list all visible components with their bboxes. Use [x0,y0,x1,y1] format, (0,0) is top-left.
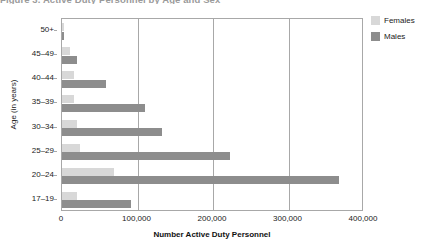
x-tick-label: 100,000 [102,214,172,223]
y-tick-label: 20–24 [0,170,54,179]
y-tick-mark [54,30,57,31]
bar-group [62,43,362,67]
bar-group [62,67,362,91]
bar-group [62,91,362,115]
bar-males [62,176,339,184]
x-tick-label: 400,000 [328,214,398,223]
bar-females [62,71,74,79]
y-tick-mark [54,199,57,200]
bar-males [62,200,131,208]
y-tick-mark [54,175,57,176]
y-tick-label: 45–49 [0,49,54,58]
y-tick-mark [54,102,57,103]
x-axis-title: Number Active Duty Personnel [61,230,363,239]
bar-group [62,164,362,188]
bar-females [62,120,77,128]
bar-group [62,116,362,140]
bar-males [62,104,145,112]
y-tick-label: 35–39 [0,97,54,106]
y-tick-mark [54,78,57,79]
chart-title: Figure 3. Active Duty Personnel by Age a… [0,0,432,4]
y-tick-label: 25–29 [0,146,54,155]
chart-legend: FemalesMales [371,14,431,46]
bar-males [62,80,106,88]
bar-males [62,32,64,40]
bar-females [62,168,114,176]
legend-swatch-icon [371,16,380,25]
bar-males [62,128,162,136]
y-tick-label: 50+ [0,25,54,34]
bar-group [62,188,362,212]
legend-label: Females [384,16,415,25]
x-tick-label: 300,000 [253,214,323,223]
bar-females [62,23,64,31]
y-tick-mark [54,151,57,152]
plot-area [61,18,363,211]
legend-swatch-icon [371,32,380,41]
legend-label: Males [384,32,405,41]
bar-group [62,19,362,43]
bar-females [62,47,70,55]
y-tick-label: 17–19 [0,194,54,203]
bar-males [62,152,230,160]
bar-group [62,140,362,164]
bar-chart: Figure 3. Active Duty Personnel by Age a… [0,0,432,251]
bar-females [62,144,80,152]
y-tick-mark [54,127,57,128]
bar-females [62,192,77,200]
y-tick-label: 40–44 [0,73,54,82]
x-tick-label: 0 [26,214,96,223]
bar-males [62,56,77,64]
x-tick-label: 200,000 [177,214,247,223]
x-axis-tick-labels: 0100,000200,000300,000400,000 [61,214,363,226]
bar-females [62,95,74,103]
y-axis-tick-labels: 17–1920–2425–2930–3435–3940–4445–4950+ [0,18,57,211]
y-tick-mark [54,54,57,55]
legend-item[interactable]: Females [371,14,431,27]
y-tick-label: 30–34 [0,122,54,131]
legend-item[interactable]: Males [371,30,431,43]
